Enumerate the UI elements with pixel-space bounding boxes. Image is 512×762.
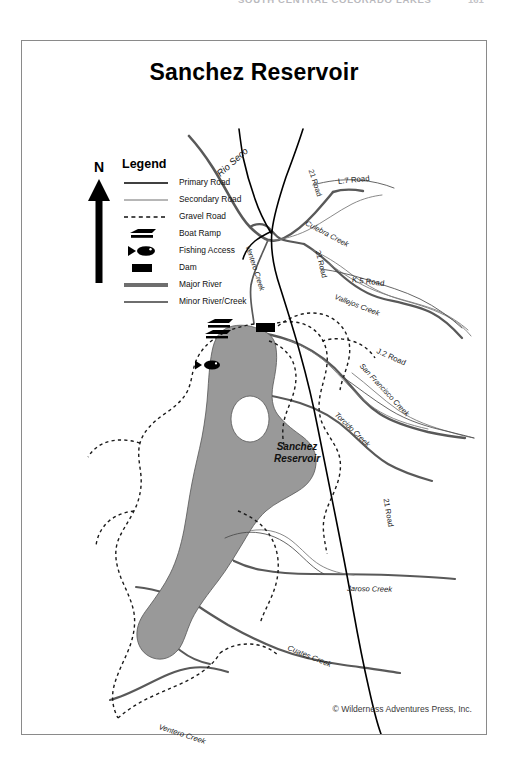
map-frame: Sanchez Reservoir: [21, 40, 487, 735]
legend-label-secondary-road: Secondary Road: [179, 194, 241, 204]
map-graphics: [22, 41, 486, 734]
north-arrow: N: [82, 159, 116, 284]
creek-culebra-east: [333, 190, 363, 192]
running-header-page-number: 161: [468, 0, 484, 5]
gravel-road-west-spur-a: [88, 440, 140, 457]
boat-ramp-icon: [122, 226, 170, 241]
legend-title: Legend: [122, 157, 166, 171]
dam-bar-icon: [122, 260, 170, 275]
reservoir-name-line2: Reservoir: [274, 453, 320, 464]
fishing-access-fish-icon: [122, 243, 170, 258]
gravel-road-dashed-line-icon: [122, 209, 170, 224]
legend-label-primary-road: Primary Road: [179, 177, 230, 187]
reservoir-water-layer: [137, 325, 316, 659]
dam-symbol: [256, 323, 275, 332]
creek-ventero-south: [110, 667, 228, 700]
book-page: SOUTH CENTRAL COLORADO LAKES 161 Sanchez…: [0, 0, 512, 762]
running-header: SOUTH CENTRAL COLORADO LAKES 161: [0, 0, 512, 10]
fishing-access-symbol: [195, 360, 220, 369]
minor-river-line-icon: [122, 294, 170, 309]
copyright-notice: © Wilderness Adventures Press, Inc.: [332, 704, 472, 714]
creek-san-francisco: [261, 333, 465, 438]
secondary-road-line-icon: [122, 192, 170, 207]
primary-road-line-icon: [122, 175, 170, 190]
boat-ramp-icon-1: [207, 319, 233, 328]
running-header-title: SOUTH CENTRAL COLORADO LAKES: [238, 0, 432, 5]
reservoir-name-line1: Sanchez: [277, 441, 318, 452]
legend-label-boat-ramp: Boat Ramp: [179, 228, 221, 238]
north-arrow-shaft: [82, 179, 116, 284]
gravel-road-ne-short: [322, 339, 375, 358]
reservoir-island: [231, 396, 269, 442]
reservoir-name-label: Sanchez Reservoir: [252, 441, 342, 465]
sanchez-reservoir-water: [137, 325, 316, 659]
legend-label-fishing-access: Fishing Access: [179, 245, 235, 255]
legend-label-gravel-road: Gravel Road: [179, 211, 226, 221]
gravel-road-west-spur-b: [96, 511, 134, 546]
map-label-jaroso-creek: Jaroso Creek: [347, 584, 392, 594]
major-river-line-icon: [122, 277, 170, 292]
legend-label-minor-river: Minor River/Creek: [179, 296, 246, 306]
north-arrow-letter: N: [82, 159, 116, 175]
legend-label-major-river: Major River: [179, 279, 222, 289]
legend-label-dam: Dam: [179, 262, 197, 272]
creek-cuates: [198, 606, 400, 673]
